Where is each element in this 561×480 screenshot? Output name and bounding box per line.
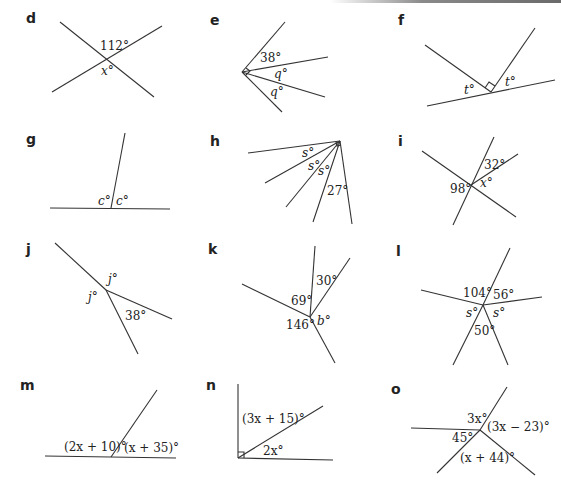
angle-label: 104° [463,286,492,300]
angle-label: c° [98,194,111,208]
angle-label: x° [101,64,114,78]
rays-g: c° c° [0,125,190,235]
diagram-h: h s° s° s° 27° [190,125,370,235]
rays-k: 30° 69° 146° b° [190,235,370,365]
angle-label: (3x + 15)° [242,412,305,426]
angle-label: j° [85,290,98,304]
angle-label: (3x − 23)° [487,420,550,434]
angle-label: s° [493,306,505,320]
diagram-l: l 104° 56° s° s° 50° [370,235,561,365]
angle-label: 69° [291,294,312,308]
angle-label: 30° [316,274,337,288]
angle-label: 27° [327,184,348,198]
angle-label: b° [317,314,331,328]
angle-label: c° [116,194,129,208]
angle-label: (x + 44)° [460,451,515,465]
diagram-k: k 30° 69° 146° b° [190,235,370,365]
angle-label: 3x° [467,412,487,426]
diagram-i: i 32° 98° x° [370,125,561,235]
diagram-g: g c° c° [0,125,190,235]
rays-h: s° s° s° 27° [190,125,370,235]
angle-label: 38° [260,51,281,65]
rays-n: (3x + 15)° 2x° [190,365,370,480]
diagram-f: f t° t° [370,0,561,115]
angle-label: 38° [125,309,146,323]
diagram-j: j j° j° 38° [0,235,190,365]
rays-e: 38° q° q° [190,0,370,115]
rays-m: (2x + 10)° (x + 35)° [0,365,190,480]
angle-label: t° [505,75,516,89]
rays-j: j° j° 38° [0,235,190,365]
angle-label: q° [270,85,284,99]
angle-label: s° [466,306,478,320]
diagram-o: o 3x° (3x − 23)° 45° (x + 44)° [370,365,561,480]
rays-f: t° t° [370,0,561,115]
diagram-e: e 38° q° q° [190,0,370,115]
angle-label: s° [318,164,330,178]
angle-label: (2x + 10)° [64,440,127,454]
diagram-m: m (2x + 10)° (x + 35)° [0,365,190,480]
angle-label: 146° [286,318,315,332]
angle-label: t° [464,83,475,97]
diagram-d: d 112° x° [0,0,190,115]
angle-label: 32° [484,158,505,172]
angle-label: 45° [452,431,473,445]
intersecting-lines-d: 112° x° [0,0,190,115]
diagram-n: n (3x + 15)° 2x° [190,365,370,480]
rays-l: 104° 56° s° s° 50° [370,235,561,365]
intersecting-lines-i: 32° 98° x° [370,125,561,235]
angle-label: (x + 35)° [124,441,179,455]
angle-label: j° [105,272,118,286]
angle-label: 2x° [263,444,283,458]
angle-label: x° [480,176,493,190]
angle-label: 50° [474,324,495,338]
rays-o: 3x° (3x − 23)° 45° (x + 44)° [370,365,561,480]
angle-label: 56° [493,288,514,302]
angle-label: 98° [450,182,471,196]
angle-label: 112° [100,39,129,53]
angle-label: q° [274,67,288,81]
angle-label: s° [302,146,314,160]
